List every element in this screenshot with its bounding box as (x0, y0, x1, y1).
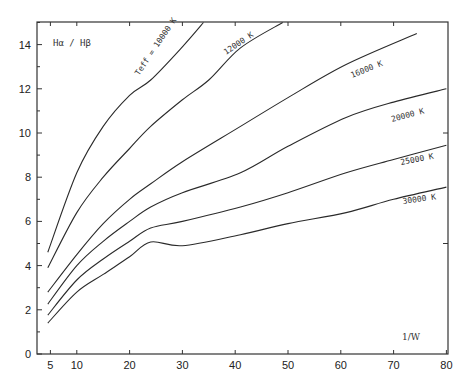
curve-12000k (48, 23, 283, 268)
x-tick-label: 70 (387, 359, 399, 371)
y-tick-label: 14 (19, 39, 31, 51)
curve-label-20000k: 20000 K (390, 106, 425, 123)
x-tick-label: 30 (176, 359, 188, 371)
axis-tick-labels: 5102030405060708002468101214 (19, 39, 453, 371)
curve-label-10000k: Teff = 10000 K (133, 16, 178, 77)
axis-ticks (37, 22, 448, 354)
curve-label-16000k: 16000 K (349, 59, 384, 80)
chart: 5102030405060708002468101214 Hα / Hβ 1/W… (0, 0, 473, 385)
curves (48, 23, 447, 324)
y-tick-label: 2 (25, 304, 31, 316)
y-axis-label: Hα / Hβ (53, 38, 91, 48)
x-tick-label: 80 (440, 359, 452, 371)
x-tick-label: 60 (335, 359, 347, 371)
x-tick-label: 40 (229, 359, 241, 371)
curve-label-12000k: 12000 K (222, 30, 255, 56)
y-tick-label: 4 (25, 260, 31, 272)
y-tick-label: 12 (19, 83, 31, 95)
plot-frame (37, 22, 448, 354)
x-axis-label: 1/W (402, 332, 421, 342)
curve-10000k (48, 23, 204, 253)
x-tick-label: 5 (47, 359, 53, 371)
x-tick-label: 10 (71, 359, 83, 371)
y-tick-label: 8 (25, 171, 31, 183)
x-tick-label: 20 (123, 359, 135, 371)
y-tick-label: 6 (25, 215, 31, 227)
curve-label-30000k: 30000 K (402, 192, 437, 206)
curve-25000k (48, 145, 447, 315)
y-tick-label: 10 (19, 127, 31, 139)
curve-label-25000k: 25000 K (400, 152, 435, 167)
y-tick-label: 0 (25, 348, 31, 360)
x-tick-label: 50 (282, 359, 294, 371)
curve-30000k (48, 187, 447, 323)
